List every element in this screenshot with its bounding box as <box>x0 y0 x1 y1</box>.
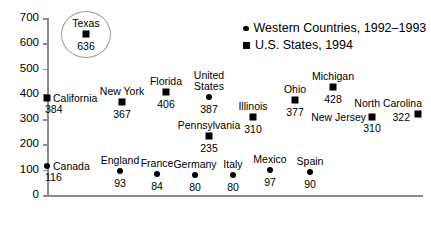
point-value: 90 <box>304 179 316 190</box>
point-value: 310 <box>244 124 262 135</box>
y-tick-mark-300 <box>43 119 47 121</box>
circle-marker <box>117 168 123 174</box>
y-tick-label-600: 600 <box>5 37 39 48</box>
y-tick-mark-500 <box>43 69 47 71</box>
legend-item: Western Countries, 1992–1993 <box>243 20 426 37</box>
square-marker <box>292 96 299 103</box>
point-label: Germany <box>173 159 216 170</box>
point-label: Illinois <box>238 101 267 112</box>
point-label: Pennsylvania <box>178 120 240 131</box>
scatter-chart: 7006005004003002001000 Texas636Californi… <box>0 0 431 228</box>
square-marker <box>369 113 376 120</box>
point-value: 367 <box>113 109 131 120</box>
y-tick-label-0: 0 <box>5 189 39 200</box>
legend-item: U.S. States, 1994 <box>243 37 426 54</box>
square-marker <box>44 94 51 101</box>
point-value: 84 <box>151 181 163 192</box>
point-value: 80 <box>227 182 239 193</box>
square-marker <box>119 99 126 106</box>
circle-marker <box>154 171 160 177</box>
point-value: 116 <box>45 172 62 183</box>
x-axis-line <box>47 195 423 197</box>
square-marker <box>250 113 257 120</box>
circle-marker <box>192 172 198 178</box>
y-tick-mark-0 <box>43 195 47 197</box>
square-marker-icon <box>243 42 250 49</box>
point-label: California <box>53 93 97 104</box>
point-value: 235 <box>200 143 218 154</box>
circle-marker <box>307 169 313 175</box>
point-value: 384 <box>45 104 63 115</box>
point-label: Spain <box>297 156 324 167</box>
y-tick-mark-200 <box>43 144 47 146</box>
point-label: Michigan <box>312 71 354 82</box>
point-value: 310 <box>363 123 381 134</box>
y-tick-label-200: 200 <box>5 138 39 149</box>
circle-marker <box>230 172 236 178</box>
point-label: Florida <box>150 76 182 87</box>
y-tick-label-500: 500 <box>5 63 39 74</box>
point-value: 377 <box>286 107 304 118</box>
point-value: 80 <box>189 182 201 193</box>
point-label: New York <box>100 86 144 97</box>
texas-highlight-circle <box>61 11 111 58</box>
y-tick-mark-600 <box>43 43 47 45</box>
square-marker <box>163 89 170 96</box>
point-value: 387 <box>200 104 218 115</box>
point-label: Italy <box>223 159 242 170</box>
y-tick-label-300: 300 <box>5 113 39 124</box>
point-label: Canada <box>53 161 90 172</box>
circle-marker <box>206 94 212 100</box>
point-value: 322 <box>392 112 410 123</box>
square-marker <box>206 132 213 139</box>
point-value: 97 <box>264 177 276 188</box>
circle-marker <box>44 163 50 169</box>
point-label: Ohio <box>284 84 306 95</box>
legend-label: Western Countries, 1992–1993 <box>254 20 427 37</box>
circle-marker <box>267 167 273 173</box>
y-tick-label-100: 100 <box>5 164 39 175</box>
point-value: 406 <box>157 99 175 110</box>
square-marker <box>415 110 422 117</box>
point-label: North Carolina <box>354 98 422 109</box>
point-label: England <box>101 155 140 166</box>
legend-label: U.S. States, 1994 <box>255 37 353 54</box>
point-label: France <box>141 158 174 169</box>
point-label: United States <box>186 70 232 91</box>
point-value: 428 <box>324 94 342 105</box>
y-tick-label-700: 700 <box>5 12 39 23</box>
circle-marker-icon <box>243 26 249 32</box>
point-label: Mexico <box>253 154 286 165</box>
y-tick-label-400: 400 <box>5 88 39 99</box>
square-marker <box>330 83 337 90</box>
legend: Western Countries, 1992–1993U.S. States,… <box>243 20 426 54</box>
point-value: 93 <box>114 178 126 189</box>
y-tick-mark-700 <box>43 18 47 20</box>
point-label: New Jersey <box>311 112 366 123</box>
